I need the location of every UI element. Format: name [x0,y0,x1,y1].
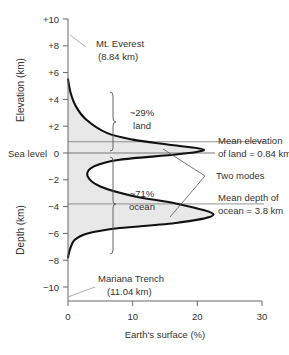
y-tick-label: −8 [48,255,59,266]
land-pct-label: ~29% [130,107,155,118]
y-tick-label: −2 [48,174,59,185]
y-tick-label: +2 [48,121,59,132]
mean-elevation-label-2: of land = 0.84 km [218,148,289,159]
y-tick-label: −10 [43,282,59,293]
y-tick-label: 0 [54,148,59,159]
x-tick-label: 10 [127,311,138,322]
land-label: land [133,120,151,131]
sea-level-label: Sea level [8,148,47,159]
depth-axis-label: Depth (km) [15,205,26,254]
everest-label-2: (8.84 km) [98,51,138,62]
mean-elevation-label-1: Mean elevation [218,135,282,146]
everest-leader [70,35,86,47]
x-tick-label: 30 [257,311,268,322]
y-tick-label: +10 [43,14,59,25]
y-tick-label: −6 [48,228,59,239]
y-tick-label: −4 [48,201,59,212]
everest-label-1: Mt. Everest [96,38,144,49]
elevation-axis-label: Elevation (km) [15,58,26,122]
two-modes-label: Two modes [216,170,265,181]
trench-label-1: Mariana Trench [98,273,164,284]
mean-depth-label-1: Mean depth of [218,192,279,203]
x-tick-label: 20 [192,311,203,322]
mean-depth-label-2: ocean = 3.8 km [218,205,283,216]
x-axis-title: Earth's surface (%) [125,329,205,340]
trench-leader [68,287,95,297]
y-tick-label: +6 [48,67,59,78]
hypsometric-chart: +10+8+6+4+20−2−4−6−8−100102030 Elevation… [0,0,289,355]
ocean-pct-label: ~71% [130,188,155,199]
trench-label-2: (11.04 km) [107,286,152,297]
y-tick-label: +4 [48,94,59,105]
ocean-label: ocean [129,201,155,212]
x-tick-label: 0 [65,311,70,322]
y-tick-label: +8 [48,40,59,51]
